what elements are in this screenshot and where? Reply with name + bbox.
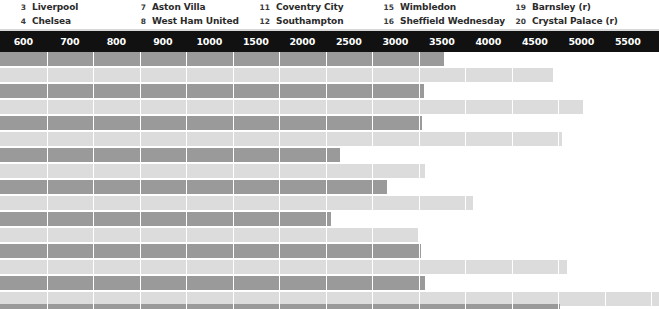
legend-entry-number: 8 bbox=[128, 15, 146, 28]
bar-row-3[interactable] bbox=[0, 116, 659, 146]
legend-entry-label: Southampton bbox=[276, 15, 343, 28]
bar-track-dark bbox=[0, 276, 659, 290]
bar-row-6[interactable] bbox=[0, 212, 659, 242]
bar-track-dark bbox=[0, 116, 659, 130]
axis-tick-6000: 6000 bbox=[651, 31, 659, 52]
bar-track-light bbox=[0, 164, 659, 178]
bar-track-light bbox=[0, 68, 659, 82]
legend-entry-number: 19 bbox=[508, 1, 526, 14]
bar-row-2[interactable] bbox=[0, 84, 659, 114]
legend-entry-8[interactable]: 8West Ham United bbox=[128, 15, 239, 28]
gridline-5 bbox=[233, 52, 234, 309]
legend-entry-label: Liverpool bbox=[32, 1, 78, 14]
legend-entry-number: 15 bbox=[376, 1, 394, 14]
legend-column-1: 3Liverpool4Chelsea bbox=[8, 0, 78, 27]
legend-entry-11[interactable]: 11Coventry City bbox=[252, 1, 343, 14]
bar-dark-row-4[interactable] bbox=[0, 148, 340, 162]
axis-tick-4000: 4000 bbox=[465, 31, 512, 52]
gridline-10 bbox=[465, 52, 466, 309]
legend-entry-label: Aston Villa bbox=[152, 1, 205, 14]
legend-entry-number: 16 bbox=[376, 15, 394, 28]
bar-track-light bbox=[0, 132, 659, 146]
gridline-3 bbox=[140, 52, 141, 309]
axis-tick-600: 600 bbox=[0, 31, 47, 52]
bar-track-dark bbox=[0, 180, 659, 194]
axis-tick-5000: 5000 bbox=[558, 31, 605, 52]
bar-chart-plot-area bbox=[0, 52, 659, 309]
legend-entry-label: Coventry City bbox=[276, 1, 343, 14]
legend-entry-4[interactable]: 4Chelsea bbox=[8, 15, 78, 28]
axis-tick-1000: 1000 bbox=[186, 31, 233, 52]
legend-entry-15[interactable]: 15Wimbledon bbox=[376, 1, 505, 14]
legend-column-4: 15Wimbledon16Sheffield Wednesday bbox=[376, 0, 505, 27]
bar-track-dark bbox=[0, 212, 659, 226]
legend-entry-number: 11 bbox=[252, 1, 270, 14]
legend-entry-label: Chelsea bbox=[32, 15, 71, 28]
legend-entry-number: 20 bbox=[508, 15, 526, 28]
gridline-4 bbox=[186, 52, 187, 309]
gridline-8 bbox=[372, 52, 373, 309]
bar-track-dark bbox=[0, 84, 659, 98]
legend-column-2: 7Aston Villa8West Ham United bbox=[128, 0, 239, 27]
axis-tick-3000: 3000 bbox=[372, 31, 419, 52]
legend-entry-number: 12 bbox=[252, 15, 270, 28]
bar-row-8[interactable] bbox=[0, 276, 659, 306]
axis-scale-bar: 6007008009001000150020002500300035004000… bbox=[0, 31, 659, 52]
legend-entry-7[interactable]: 7Aston Villa bbox=[128, 1, 239, 14]
bar-dark-row-1[interactable] bbox=[0, 52, 444, 66]
bar-track-light bbox=[0, 100, 659, 114]
bar-dark-row-7[interactable] bbox=[0, 244, 421, 258]
bar-track-dark bbox=[0, 52, 659, 66]
bar-dark-row-5[interactable] bbox=[0, 180, 387, 194]
bar-light-row-2[interactable] bbox=[0, 100, 583, 114]
bar-track-light bbox=[0, 196, 659, 210]
bar-track-dark bbox=[0, 148, 659, 162]
legend-column-5: 19Barnsley (r)20Crystal Palace (r) bbox=[508, 0, 618, 27]
legend-entry-label: Crystal Palace (r) bbox=[532, 15, 618, 28]
bar-dark-row-2[interactable] bbox=[0, 84, 424, 98]
axis-tick-4500: 4500 bbox=[512, 31, 559, 52]
bar-light-row-7[interactable] bbox=[0, 260, 567, 274]
legend-entry-label: Sheffield Wednesday bbox=[400, 15, 505, 28]
legend-entry-label: Barnsley (r) bbox=[532, 1, 591, 14]
bar-light-row-1[interactable] bbox=[0, 68, 553, 82]
bar-light-row-4[interactable] bbox=[0, 164, 425, 178]
axis-tick-800: 800 bbox=[93, 31, 140, 52]
gridline-6 bbox=[279, 52, 280, 309]
bar-light-row-6[interactable] bbox=[0, 228, 418, 242]
legend-entry-19[interactable]: 19Barnsley (r) bbox=[508, 1, 618, 14]
legend-entry-number: 4 bbox=[8, 15, 26, 28]
gridline-9 bbox=[419, 52, 420, 309]
bar-dark-row-8[interactable] bbox=[0, 276, 425, 290]
axis-tick-5500: 5500 bbox=[605, 31, 652, 52]
bar-light-row-5[interactable] bbox=[0, 196, 473, 210]
axis-tick-2500: 2500 bbox=[326, 31, 373, 52]
legend-entry-label: West Ham United bbox=[152, 15, 239, 28]
bar-row-1[interactable] bbox=[0, 52, 659, 82]
bar-row-7[interactable] bbox=[0, 244, 659, 274]
legend-entry-12[interactable]: 12Southampton bbox=[252, 15, 343, 28]
bar-row-4[interactable] bbox=[0, 148, 659, 178]
bar-track-dark bbox=[0, 244, 659, 258]
bar-dark-row-9[interactable] bbox=[0, 304, 560, 309]
legend-entry-number: 3 bbox=[8, 1, 26, 14]
legend: 3Liverpool4Chelsea7Aston Villa8West Ham … bbox=[0, 0, 659, 27]
legend-entry-20[interactable]: 20Crystal Palace (r) bbox=[508, 15, 618, 28]
bar-dark-row-6[interactable] bbox=[0, 212, 331, 226]
gridline-2 bbox=[93, 52, 94, 309]
legend-column-3: 11Coventry City12Southampton bbox=[252, 0, 343, 27]
legend-entry-3[interactable]: 3Liverpool bbox=[8, 1, 78, 14]
bar-row-5[interactable] bbox=[0, 180, 659, 210]
axis-tick-3500: 3500 bbox=[419, 31, 466, 52]
gridline-1 bbox=[47, 52, 48, 309]
legend-entry-16[interactable]: 16Sheffield Wednesday bbox=[376, 15, 505, 28]
bar-track-light bbox=[0, 228, 659, 242]
legend-entry-number: 7 bbox=[128, 1, 146, 14]
axis-tick-900: 900 bbox=[140, 31, 187, 52]
axis-tick-2000: 2000 bbox=[279, 31, 326, 52]
axis-tick-1500: 1500 bbox=[233, 31, 280, 52]
gridline-11 bbox=[512, 52, 513, 309]
bar-light-row-3[interactable] bbox=[0, 132, 562, 146]
axis-tick-700: 700 bbox=[47, 31, 94, 52]
bar-dark-row-3[interactable] bbox=[0, 116, 422, 130]
